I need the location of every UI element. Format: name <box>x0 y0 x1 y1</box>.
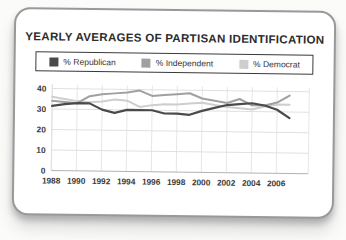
y-tick-label: 10 <box>36 145 46 155</box>
x-tick-label: 2002 <box>217 178 236 188</box>
y-tick-label: 20 <box>36 124 46 134</box>
gridline-vertical <box>126 85 127 171</box>
gridline-vertical <box>276 87 277 173</box>
legend-item-republican: % Republican <box>49 56 116 67</box>
x-tick-label: 1998 <box>167 177 186 187</box>
gridline-vertical <box>76 85 77 171</box>
gridline-horizontal <box>52 109 309 112</box>
legend-item-democrat: % Democrat <box>239 59 300 70</box>
x-tick-label: 1992 <box>92 176 111 186</box>
legend-swatch-republican-icon <box>49 57 58 66</box>
x-tick-label: 2006 <box>267 178 286 188</box>
legend-label-independent: % Independent <box>156 58 213 69</box>
gridline-vertical <box>226 87 227 173</box>
chart-card: YEARLY AVERAGES OF PARTISAN IDENTIFICATI… <box>12 7 337 219</box>
legend-label-democrat: % Democrat <box>253 59 300 70</box>
legend-swatch-independent-icon <box>142 58 151 67</box>
x-axis-line <box>51 171 308 174</box>
line-chart: 0102030401988199019921994199619982000200… <box>16 73 329 201</box>
gridline-vertical <box>251 87 252 173</box>
x-tick-label: 2000 <box>192 177 211 187</box>
gridline-vertical <box>101 85 102 171</box>
gridline-vertical <box>308 88 309 174</box>
x-tick-label: 2004 <box>242 178 261 188</box>
gridline-vertical <box>151 86 152 172</box>
legend-swatch-democrat-icon <box>239 59 248 68</box>
y-tick-label: 30 <box>37 104 47 114</box>
gridline-horizontal <box>52 89 309 92</box>
chart-title: YEARLY AVERAGES OF PARTISAN IDENTIFICATI… <box>16 30 334 46</box>
gridline-horizontal <box>52 150 309 153</box>
x-tick-label: 1988 <box>42 175 61 185</box>
y-tick-label: 0 <box>41 165 46 175</box>
chart-legend: % Republican % Independent % Democrat <box>35 51 314 74</box>
y-tick-label: 40 <box>37 83 47 93</box>
gridline-vertical <box>176 86 177 172</box>
legend-item-independent: % Independent <box>142 58 213 69</box>
x-tick-label: 1994 <box>117 176 136 186</box>
legend-label-republican: % Republican <box>63 57 116 68</box>
gridline-horizontal <box>52 130 309 133</box>
x-tick-label: 1990 <box>67 176 86 186</box>
x-tick-label: 1996 <box>142 177 161 187</box>
